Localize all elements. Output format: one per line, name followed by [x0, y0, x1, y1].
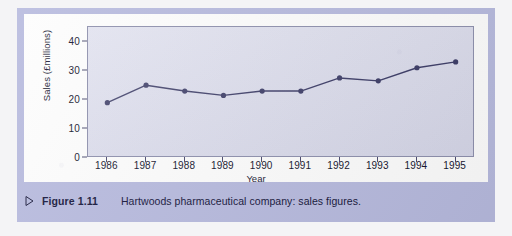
- plot-area: [87, 26, 474, 157]
- y-tick-mark: [82, 40, 87, 41]
- figure-panel: Sales (£millions) 010203040 198619871988…: [17, 8, 495, 222]
- x-tick-mark: [339, 157, 340, 162]
- series-polyline: [107, 62, 455, 103]
- x-tick-mark: [184, 157, 185, 162]
- y-tick-mark: [82, 98, 87, 99]
- y-tick-label: 30: [52, 64, 80, 75]
- x-tick-mark: [455, 157, 456, 162]
- x-tick-mark: [261, 157, 262, 162]
- line-chart: Sales (£millions) 010203040 198619871988…: [24, 14, 488, 182]
- data-point: [453, 59, 458, 64]
- y-tick-label: 40: [52, 35, 80, 46]
- y-tick-label: 10: [52, 122, 80, 133]
- x-tick-mark: [222, 157, 223, 162]
- data-point: [298, 88, 303, 93]
- y-axis-ticks: 010203040: [48, 14, 80, 182]
- triangle-right-icon: [24, 196, 35, 207]
- series-markers: [105, 59, 459, 105]
- figure-caption: Figure 1.11 Hartwoods pharmaceutical com…: [24, 190, 488, 212]
- caption-description: Hartwoods pharmaceutical company: sales …: [121, 195, 361, 207]
- y-tick-label: 20: [52, 93, 80, 104]
- x-tick-mark: [377, 157, 378, 162]
- data-point: [260, 88, 265, 93]
- data-point: [105, 100, 110, 105]
- y-tick-mark: [82, 127, 87, 128]
- series-line: [88, 27, 475, 158]
- x-tick-mark: [300, 157, 301, 162]
- data-point: [143, 83, 148, 88]
- data-point: [376, 78, 381, 83]
- y-tick-mark: [82, 157, 87, 158]
- x-tick-mark: [106, 157, 107, 162]
- figure-number: Figure 1.11: [42, 195, 98, 207]
- y-tick-mark: [82, 69, 87, 70]
- scanned-page: Sales (£millions) 010203040 198619871988…: [0, 0, 512, 236]
- x-axis-title: Year: [24, 173, 488, 184]
- data-point: [221, 93, 226, 98]
- data-point: [414, 65, 419, 70]
- data-point: [337, 75, 342, 80]
- y-tick-label: 0: [52, 152, 80, 163]
- x-tick-mark: [145, 157, 146, 162]
- x-tick-mark: [416, 157, 417, 162]
- chart-card: Sales (£millions) 010203040 198619871988…: [24, 14, 488, 182]
- data-point: [182, 88, 187, 93]
